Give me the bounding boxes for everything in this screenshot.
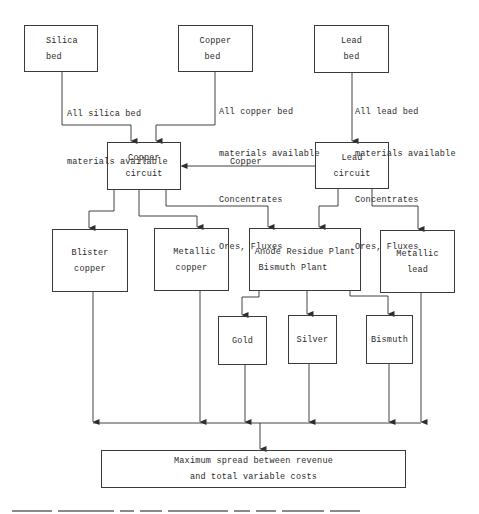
copper-circuit-label-2: circuit [125, 166, 162, 182]
objective-label-1: Maximum spread between revenue [174, 453, 333, 469]
metallic-copper-box: Metallic copper [154, 228, 229, 291]
lead-bed-label-2: bed [344, 49, 360, 65]
metallic-lead-box: Metallic lead [380, 230, 455, 293]
lead-bed-label-1: Lead [341, 33, 362, 49]
gold-label: Gold [232, 333, 253, 349]
copper-transfer-label: Copper [230, 154, 262, 170]
metallic-lead-label-1: Metallic [396, 246, 438, 262]
edge-copper-circuit-to-metallic-copper [139, 189, 197, 227]
blister-copper-label-1: Blister [71, 245, 108, 261]
edge-copper-circuit-to-blister [89, 189, 114, 228]
copper-edge-label-3: Concentrates [219, 193, 320, 209]
silica-bed-box: Silica bed [24, 25, 98, 72]
silica-bed-label-2: bed [46, 49, 62, 65]
lead-edge-label-3: Concentrates [355, 193, 456, 209]
copper-bed-label-2: bed [205, 49, 221, 65]
copper-circuit-box: Copper circuit [107, 142, 181, 190]
silver-label: Silver [297, 332, 329, 348]
blister-copper-box: Blister copper [52, 229, 128, 292]
copper-edge-label-1: All copper bed [219, 105, 320, 121]
anode-residue-box: Anode Residue Plant Bismuth Plant [249, 228, 361, 291]
edge-anode-to-gold [242, 290, 259, 315]
lead-edge-label-1: All lead bed [355, 105, 456, 121]
edge-anode-to-bismuth [350, 290, 388, 314]
lead-bed-box: Lead bed [314, 25, 389, 73]
figure-caption-truncated [12, 510, 382, 514]
lead-circuit-box: Lead circuit [315, 142, 389, 189]
objective-label-2: and total variable costs [190, 469, 317, 485]
copper-bed-box: Copper bed [178, 25, 253, 72]
metallic-lead-label-2: lead [407, 262, 428, 278]
lead-circuit-label-2: circuit [333, 166, 370, 182]
copper-bed-label-1: Copper [200, 33, 232, 49]
bismuth-label: Bismuth [371, 332, 408, 348]
silica-bed-label-1: Silica [46, 33, 78, 49]
silica-edge-label-1: All silica bed [67, 106, 168, 122]
lead-circuit-label-1: Lead [341, 150, 362, 166]
gold-box: Gold [218, 316, 267, 365]
anode-residue-label-1: Anode Residue Plant [255, 244, 356, 260]
anode-residue-label-2: Bismuth Plant [259, 260, 328, 276]
silver-box: Silver [288, 315, 337, 364]
copper-circuit-label-1: Copper [128, 150, 160, 166]
bismuth-box: Bismuth [366, 315, 413, 364]
blister-copper-label-2: copper [74, 261, 106, 277]
metallic-copper-label-1: Metallic [173, 244, 215, 260]
objective-box: Maximum spread between revenue and total… [101, 450, 406, 488]
edge-lead-circuit-to-anode [319, 188, 338, 227]
metallic-copper-label-2: copper [176, 260, 208, 276]
